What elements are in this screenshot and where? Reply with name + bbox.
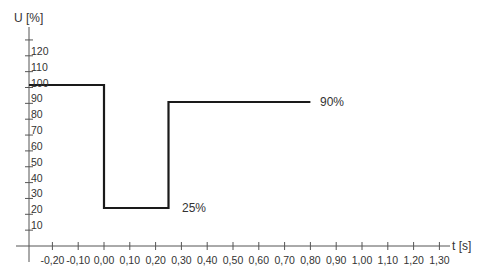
y-tick-label: 100 [31, 77, 49, 89]
annotation-label: 90% [320, 95, 344, 109]
x-tick-label: 0,90 [326, 254, 347, 266]
voltage-dip-chart: -0,20-0,100,000,100,200,300,400,500,600,… [0, 0, 484, 279]
x-tick-label: 0,10 [120, 254, 141, 266]
annotation-label: 25% [182, 201, 206, 215]
y-tick-label: 80 [31, 108, 43, 120]
y-tick-label: 90 [31, 92, 43, 104]
y-tick-label: 20 [31, 203, 43, 215]
x-tick-label: 0,40 [197, 254, 218, 266]
y-tick-label: 110 [31, 61, 48, 73]
y-tick-label: 120 [31, 45, 49, 57]
x-tick-label: -0,10 [66, 254, 90, 266]
voltage-line [29, 85, 310, 208]
labels: -0,20-0,100,000,100,200,300,400,500,600,… [14, 11, 471, 266]
x-axis-title: t [s] [452, 239, 471, 253]
y-tick-label: 40 [31, 172, 43, 184]
x-tick-label: 0,20 [145, 254, 166, 266]
y-tick-label: 10 [31, 219, 43, 231]
axes [16, 27, 450, 262]
x-tick-label: 0,60 [249, 254, 270, 266]
y-tick-label: 60 [31, 140, 43, 152]
x-tick-label: 1,20 [403, 254, 424, 266]
x-tick-label: 0,00 [94, 254, 115, 266]
y-axis-title: U [%] [14, 11, 43, 25]
x-tick-label: 0,70 [274, 254, 295, 266]
x-tick-label: 1,10 [378, 254, 399, 266]
x-tick-label: 1,00 [352, 254, 373, 266]
x-tick-label: 1,30 [429, 254, 450, 266]
y-tick-label: 30 [31, 187, 43, 199]
x-tick-label: 0,30 [171, 254, 192, 266]
x-tick-label: 0,80 [300, 254, 321, 266]
y-tick-label: 70 [31, 124, 43, 136]
y-tick-label: 50 [31, 156, 43, 168]
series [29, 85, 310, 208]
x-tick-label: -0,20 [40, 254, 64, 266]
x-tick-label: 0,50 [223, 254, 244, 266]
